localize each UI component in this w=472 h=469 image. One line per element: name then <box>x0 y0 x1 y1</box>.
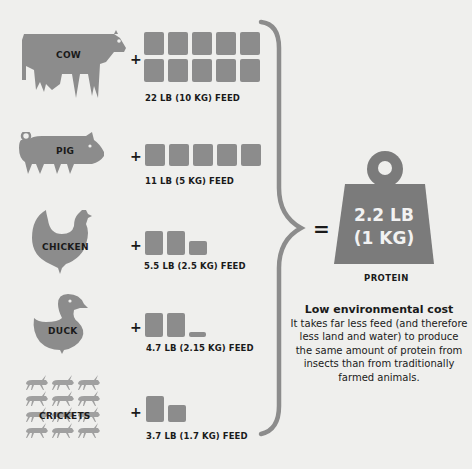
feed-bags-pig <box>145 144 261 166</box>
feed-bag <box>240 59 260 82</box>
weight-value: 2.2 LB (1 KG) <box>334 204 434 250</box>
duck-icon: DUCK <box>32 294 92 356</box>
feed-bag <box>167 313 185 337</box>
feed-bag <box>168 59 188 82</box>
plus-sign: + <box>130 52 142 66</box>
feed-label-crickets: 3.7 LB (1.7 KG) FEED <box>146 431 248 441</box>
feed-bag <box>146 396 164 422</box>
plus-sign: + <box>130 320 142 334</box>
feed-bag <box>217 144 237 166</box>
feed-bag <box>216 59 236 82</box>
animal-label-cow: COW <box>56 50 81 60</box>
feed-bag <box>145 231 163 255</box>
weight-kg: (1 KG) <box>334 227 434 250</box>
feed-bags-duck <box>145 313 206 337</box>
note-title: Low environmental cost <box>290 303 468 316</box>
feed-label-pig: 11 LB (5 KG) FEED <box>145 176 234 186</box>
environmental-note: Low environmental cost It takes far less… <box>290 303 468 384</box>
feed-bags-cow <box>144 32 260 82</box>
feed-bag-partial <box>168 405 186 422</box>
feed-label-duck: 4.7 LB (2.15 KG) FEED <box>146 343 254 353</box>
animal-label-pig: PIG <box>56 146 74 156</box>
feed-bag <box>192 59 212 82</box>
feed-bag <box>145 144 165 166</box>
feed-bag <box>192 32 212 55</box>
protein-label: PROTEIN <box>364 273 409 283</box>
note-body: It takes far less feed (and therefore le… <box>290 317 468 384</box>
feed-bag <box>144 32 164 55</box>
animal-label-duck: DUCK <box>48 326 78 336</box>
pig-icon: PIG <box>18 132 108 182</box>
feed-label-cow: 22 LB (10 KG) FEED <box>145 93 240 103</box>
plus-sign: + <box>130 238 142 252</box>
weight-lb: 2.2 LB <box>334 204 434 227</box>
feed-bag <box>167 231 185 255</box>
feed-bag <box>145 313 163 337</box>
equals-sign: = <box>313 219 330 239</box>
feed-bag <box>216 32 236 55</box>
plus-sign: + <box>130 405 142 419</box>
feed-bag <box>240 32 260 55</box>
feed-bag <box>169 144 189 166</box>
feed-bag <box>144 59 164 82</box>
feed-bag-partial <box>189 332 206 337</box>
plus-sign: + <box>130 149 142 163</box>
feed-bags-chicken <box>145 231 207 255</box>
cow-icon: COW <box>20 30 126 100</box>
animal-label-chicken: CHICKEN <box>42 242 89 252</box>
feed-bag <box>168 32 188 55</box>
crickets-icon: CRICKETS <box>24 375 100 441</box>
feed-bag <box>193 144 213 166</box>
weight-icon: 2.2 LB (1 KG) <box>330 150 438 270</box>
feed-bags-crickets <box>146 396 186 422</box>
feed-label-chicken: 5.5 LB (2.5 KG) FEED <box>144 261 246 271</box>
feed-bag-partial <box>189 241 207 255</box>
animal-label-crickets: CRICKETS <box>39 411 91 421</box>
chicken-icon: CHICKEN <box>30 208 100 276</box>
